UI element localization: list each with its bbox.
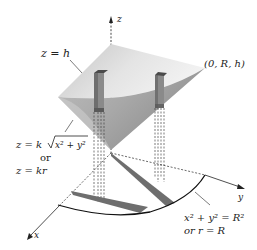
radial-strips xyxy=(71,153,175,213)
circle-or-r: or r = R xyxy=(184,225,225,236)
circle-equation: x² + y² = R² or r = R xyxy=(184,212,244,236)
cone-volume-diagram: z y x z = h (0, R, h) z = k x² + y² or z… xyxy=(0,0,257,250)
cone-eq-prefix: z = k xyxy=(15,139,42,150)
circle-eq: x² + y² = R² xyxy=(184,212,244,223)
cone-eq-radicand: x² + y² xyxy=(55,140,86,150)
corner-point-label: (0, R, h) xyxy=(204,58,245,69)
y-axis-label: y xyxy=(237,192,244,202)
z-axis-label: z xyxy=(116,14,122,24)
x-axis-label: x xyxy=(34,230,39,240)
top-plane-label: z = h xyxy=(40,47,70,60)
cone-or: or xyxy=(40,152,51,163)
cone-equation: z = k x² + y² or z = kr xyxy=(15,136,88,176)
cone-eq-kr: z = kr xyxy=(15,165,48,176)
